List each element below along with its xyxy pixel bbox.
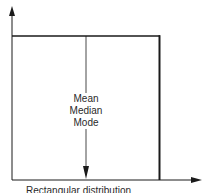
diagram-caption: Rectangular distribution xyxy=(26,185,131,193)
y-axis xyxy=(9,6,15,180)
mode-label: Mode xyxy=(56,117,116,129)
x-axis-arrow-icon xyxy=(191,177,202,183)
y-axis-arrow-icon xyxy=(9,6,15,16)
x-axis xyxy=(12,177,202,183)
down-arrow-icon xyxy=(83,166,89,179)
median-label: Median xyxy=(56,105,116,117)
central-tendency-labels: Mean Median Mode xyxy=(56,93,116,129)
mean-label: Mean xyxy=(56,93,116,105)
